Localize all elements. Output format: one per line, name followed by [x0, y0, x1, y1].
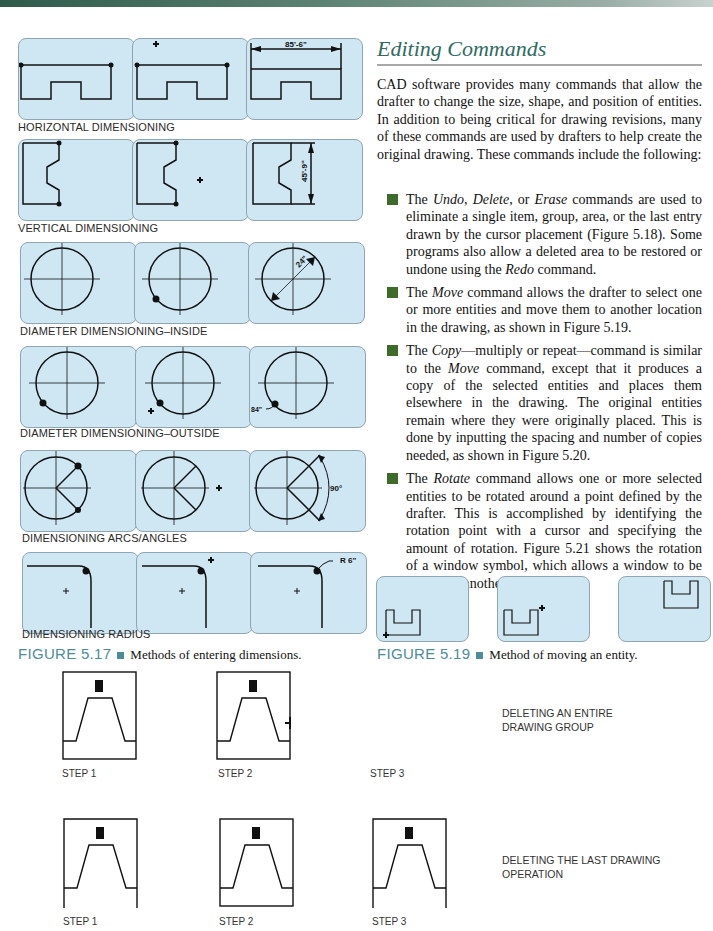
step-label: STEP 1 [63, 916, 97, 927]
svg-text:R 6": R 6" [340, 556, 356, 565]
intro-paragraph: CAD software provides many commands that… [377, 76, 702, 163]
horizontal-dim-step2 [132, 38, 249, 120]
caption-horizontal: HORIZONTAL DIMENSIONING [18, 121, 175, 133]
figure-5-17-caption: FIGURE 5.17Methods of entering dimension… [18, 645, 302, 663]
step-label: STEP 2 [219, 916, 253, 927]
horizontal-dim-step3: 85'-6" [246, 38, 363, 120]
vertical-dim-step3: 45'-9" [246, 139, 363, 221]
move-step3 [618, 576, 711, 642]
step-label: STEP 3 [372, 916, 406, 927]
caption-square-icon [117, 652, 124, 659]
bullet-square-icon [387, 345, 398, 356]
svg-text:45'-9": 45'-9" [300, 160, 309, 182]
figure-number: FIGURE 5.17 [18, 645, 111, 662]
diameter-outside-step2 [135, 346, 252, 428]
bullet-copy: The Copy—multiply or repeat—command is s… [377, 342, 702, 464]
svg-text:85'-6": 85'-6" [285, 40, 307, 49]
delete-group-step2 [216, 671, 291, 761]
svg-text:84": 84" [251, 406, 262, 413]
step-label: STEP 3 [370, 768, 404, 779]
delete-last-step1 [63, 818, 138, 908]
svg-text:90°: 90° [330, 484, 342, 493]
delete-last-description: DELETING THE LAST DRAWING OPERATION [502, 853, 662, 881]
bullet-square-icon [387, 473, 398, 484]
diameter-inside-step1 [20, 242, 137, 324]
caption-diameter-outside: DIAMETER DIMENSIONING–OUTSIDE [20, 427, 220, 439]
caption-arcs-angles: DIMENSIONING ARCS/ANGLES [22, 532, 187, 544]
step-label: STEP 2 [218, 768, 252, 779]
caption-square-icon [476, 652, 483, 659]
bullet-move: The Move command allows the drafter to s… [377, 284, 702, 336]
caption-diameter-inside: DIAMETER DIMENSIONING–INSIDE [20, 325, 207, 337]
diameter-outside-step1 [20, 346, 137, 428]
vertical-dim-step2 [132, 139, 249, 221]
bullet-square-icon [387, 287, 398, 298]
radius-step1 [22, 552, 139, 634]
diameter-outside-step3: 84" [249, 346, 366, 428]
diameter-inside-step2 [134, 242, 251, 324]
vertical-dim-step1 [18, 139, 135, 221]
arcs-angles-step3: 90° [249, 450, 366, 532]
figure-caption-text: Method of moving an entity. [489, 647, 637, 662]
heading-rule [377, 64, 702, 66]
caption-radius: DIMENSIONING RADIUS [22, 628, 150, 640]
bullet-square-icon [387, 194, 398, 205]
horizontal-dim-step1 [18, 38, 135, 120]
radius-step3: R 6" [250, 552, 367, 634]
arcs-angles-step1 [20, 450, 137, 532]
move-step2 [497, 576, 590, 642]
svg-text:24": 24" [294, 254, 309, 269]
figure-5-19-caption: FIGURE 5.19Method of moving an entity. [377, 645, 638, 663]
figure-caption-text: Methods of entering dimensions. [130, 647, 301, 662]
delete-group-step1 [62, 671, 137, 761]
radius-step2 [136, 552, 253, 634]
move-step1 [376, 576, 469, 642]
bullet-rotate: The Rotate command allows one or more se… [377, 470, 702, 592]
arcs-angles-step2 [135, 450, 252, 532]
diameter-inside-step3: 24" [248, 242, 365, 324]
delete-group-description: DELETING AN ENTIRE DRAWING GROUP [502, 706, 662, 734]
caption-vertical: VERTICAL DIMENSIONING [18, 222, 158, 234]
command-list: The Undo, Delete, or Erase commands are … [377, 191, 702, 598]
figure-number: FIGURE 5.19 [377, 645, 470, 662]
step-label: STEP 1 [62, 768, 96, 779]
section-heading: Editing Commands [377, 36, 546, 62]
delete-last-step3 [372, 818, 447, 908]
delete-last-step2 [219, 818, 294, 908]
header-band [0, 0, 713, 7]
bullet-undo-delete-erase: The Undo, Delete, or Erase commands are … [377, 191, 702, 278]
